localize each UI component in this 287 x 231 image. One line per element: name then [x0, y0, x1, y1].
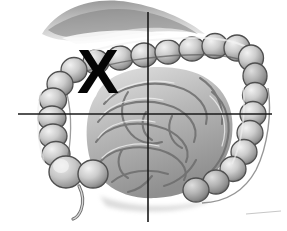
x-annotation-mark: X [75, 40, 121, 102]
medical-illustration-figure: X [0, 0, 287, 231]
cecum [49, 156, 108, 188]
intestines-illustration [0, 0, 287, 231]
